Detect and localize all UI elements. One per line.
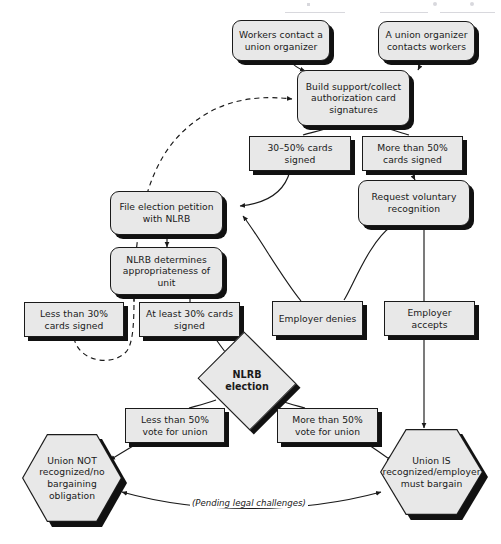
edge-build-to-cards50 — [381, 126, 409, 135]
edge-denies-to-petition — [243, 216, 301, 301]
node-label: NLRB election — [210, 369, 284, 392]
scan-artifact — [433, 2, 437, 6]
scan-artifact — [307, 3, 310, 6]
node-label: Request voluntary recognition — [359, 191, 469, 214]
node-more-than-50-vote[interactable]: More than 50% vote for union — [277, 408, 378, 443]
edge-organizer-to-build — [418, 61, 421, 70]
node-nlrb-determines[interactable]: NLRB determines appropriateness of unit — [110, 247, 223, 295]
node-build-support[interactable]: Build support/collect authorization card… — [297, 70, 410, 126]
node-workers-contact[interactable]: Workers contact a union organizer — [232, 20, 330, 61]
node-label: Less than 30% cards signed — [25, 308, 123, 331]
node-label: File election petition with NLRB — [111, 201, 222, 224]
edge-cards50-to-request — [412, 171, 415, 180]
node-cards-30-50[interactable]: 30–50% cards signed — [249, 136, 351, 171]
scan-artifact — [380, 12, 428, 13]
node-label: More than 50% cards signed — [363, 142, 462, 165]
node-label: NLRB determines appropriateness of unit — [111, 254, 222, 289]
node-request-voluntary[interactable]: Request voluntary recognition — [358, 180, 470, 226]
node-union-not-recognized[interactable]: Union NOT recognized/no bargaining oblig… — [22, 434, 122, 522]
node-file-petition[interactable]: File election petition with NLRB — [110, 191, 223, 235]
scan-artifact — [470, 2, 474, 6]
node-employer-accepts[interactable]: Employer accepts — [384, 301, 475, 336]
node-label: Union NOT recognized/no bargaining oblig… — [22, 455, 122, 501]
scan-artifact — [440, 12, 495, 13]
edge-cards3050-to-petition — [240, 171, 290, 206]
scan-artifact — [285, 12, 345, 13]
edge-build-to-cards3050 — [303, 126, 333, 135]
node-label: Employer denies — [275, 313, 361, 325]
node-label: Workers contact a union organizer — [233, 29, 329, 52]
node-nlrb-election[interactable]: NLRB election — [210, 348, 284, 414]
node-employer-denies[interactable]: Employer denies — [272, 301, 363, 336]
node-less-than-50-vote[interactable]: Less than 50% vote for union — [125, 408, 225, 443]
edge-request-to-denies — [344, 226, 392, 300]
node-label: Less than 50% vote for union — [126, 414, 224, 437]
node-label: 30–50% cards signed — [250, 142, 350, 165]
node-label: At least 30% cards signed — [140, 308, 239, 331]
node-label: A union organizer contacts workers — [379, 29, 474, 52]
node-label: Union IS recognized/employer must bargai… — [379, 455, 485, 490]
node-label: More than 50% vote for union — [278, 414, 377, 437]
node-at-least-30[interactable]: At least 30% cards signed — [139, 302, 240, 337]
node-organizer-contacts[interactable]: A union organizer contacts workers — [378, 21, 475, 61]
flowchart-canvas: Workers contact a union organizer A unio… — [0, 0, 501, 544]
node-label: Employer accepts — [385, 307, 474, 330]
node-union-is-recognized[interactable]: Union IS recognized/employer must bargai… — [380, 429, 483, 515]
node-less-than-30[interactable]: Less than 30% cards signed — [24, 302, 124, 337]
node-cards-more-50[interactable]: More than 50% cards signed — [362, 136, 463, 171]
node-label: Build support/collect authorization card… — [298, 81, 409, 116]
edge-label-pending-legal: (Pending legal challenges) — [190, 498, 308, 508]
